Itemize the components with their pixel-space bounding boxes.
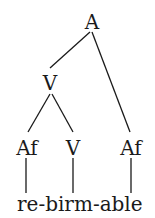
word-label: re-birm-able [17,194,143,214]
morphology-tree: A V Af V Af re-birm-able [0,0,155,218]
tree-branches [0,0,155,218]
node-root-a: A [85,12,99,32]
node-affix-right: Af [120,138,142,158]
branch-a-v [50,32,90,68]
branch-v-af-left [28,94,50,132]
node-v: V [43,73,57,93]
branch-a-af-right [92,32,130,132]
node-verb: V [66,138,80,158]
branch-v-v [52,94,73,132]
node-affix-left: Af [16,138,38,158]
